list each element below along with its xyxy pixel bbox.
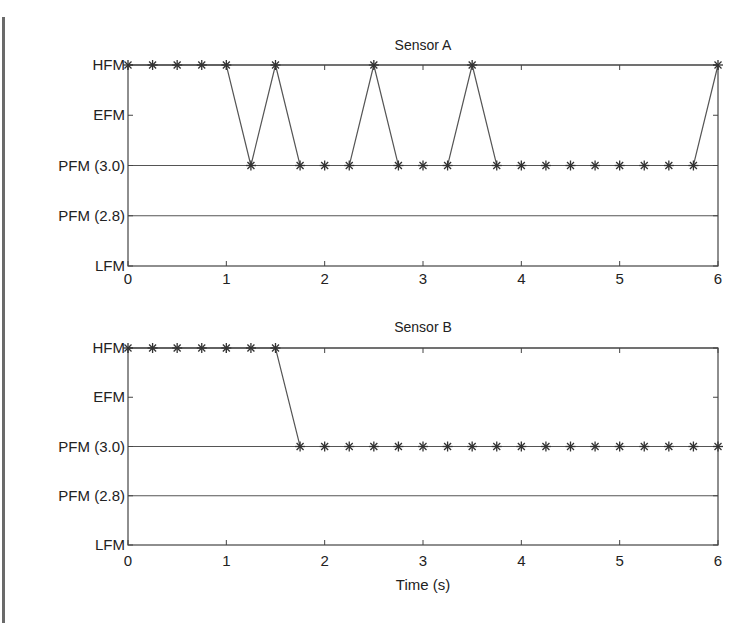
data-point-marker xyxy=(148,60,158,70)
x-tick-label: 0 xyxy=(124,552,132,569)
data-point-marker xyxy=(418,442,428,452)
data-point-marker xyxy=(492,442,502,452)
data-point-marker xyxy=(590,442,600,452)
x-tick-label: 3 xyxy=(419,270,427,287)
data-point-marker xyxy=(590,161,600,171)
data-point-marker xyxy=(664,442,674,452)
data-point-marker xyxy=(639,161,649,171)
data-point-marker xyxy=(172,60,182,70)
data-point-marker xyxy=(246,343,256,353)
data-point-marker xyxy=(123,343,133,353)
data-point-marker xyxy=(443,442,453,452)
data-point-marker xyxy=(172,343,182,353)
data-point-marker xyxy=(713,442,723,452)
data-point-marker xyxy=(443,161,453,171)
x-tick-label: 2 xyxy=(320,270,328,287)
x-axis-label: Time (s) xyxy=(396,576,450,593)
data-series-line xyxy=(128,65,718,166)
x-tick-label: 1 xyxy=(222,270,230,287)
chart-sensor-a: Sensor ALFMPFM (2.8)PFM (3.0)EFMHFM01234… xyxy=(58,37,723,287)
x-tick-label: 3 xyxy=(419,552,427,569)
y-tick-label: PFM (3.0) xyxy=(58,157,125,174)
y-tick-label: EFM xyxy=(93,388,125,405)
y-tick-label: HFM xyxy=(93,339,126,356)
data-point-marker xyxy=(541,442,551,452)
data-point-marker xyxy=(369,442,379,452)
data-point-marker xyxy=(197,60,207,70)
data-point-marker xyxy=(271,343,281,353)
data-point-marker xyxy=(197,343,207,353)
chart-title: Sensor A xyxy=(395,37,452,53)
data-point-marker xyxy=(295,161,305,171)
data-point-marker xyxy=(541,161,551,171)
data-point-marker xyxy=(369,60,379,70)
x-tick-label: 6 xyxy=(714,552,722,569)
data-point-marker xyxy=(148,343,158,353)
data-point-marker xyxy=(320,442,330,452)
data-point-marker xyxy=(688,161,698,171)
data-point-marker xyxy=(713,60,723,70)
y-tick-label: PFM (2.8) xyxy=(58,207,125,224)
data-point-marker xyxy=(566,442,576,452)
data-point-marker xyxy=(516,442,526,452)
data-point-marker xyxy=(639,442,649,452)
x-tick-label: 5 xyxy=(615,270,623,287)
x-tick-label: 2 xyxy=(320,552,328,569)
data-point-marker xyxy=(467,60,477,70)
chart-sensor-b: Sensor BLFMPFM (2.8)PFM (3.0)EFMHFM01234… xyxy=(58,319,723,593)
y-tick-label: HFM xyxy=(93,56,126,73)
x-tick-label: 6 xyxy=(714,270,722,287)
data-point-marker xyxy=(246,161,256,171)
data-point-marker xyxy=(221,60,231,70)
sensor-charts: Sensor ALFMPFM (2.8)PFM (3.0)EFMHFM01234… xyxy=(0,0,756,623)
x-tick-label: 4 xyxy=(517,270,525,287)
data-point-marker xyxy=(615,442,625,452)
y-tick-label: EFM xyxy=(93,106,125,123)
y-tick-label: PFM (2.8) xyxy=(58,487,125,504)
data-point-marker xyxy=(664,161,674,171)
x-tick-label: 5 xyxy=(615,552,623,569)
data-point-marker xyxy=(295,442,305,452)
y-tick-label: LFM xyxy=(95,257,125,274)
data-point-marker xyxy=(123,60,133,70)
chart-title: Sensor B xyxy=(394,319,452,335)
x-tick-label: 1 xyxy=(222,552,230,569)
y-tick-label: LFM xyxy=(95,536,125,553)
data-point-marker xyxy=(615,161,625,171)
data-series-line xyxy=(128,348,718,447)
x-tick-label: 0 xyxy=(124,270,132,287)
data-point-marker xyxy=(344,161,354,171)
data-point-marker xyxy=(492,161,502,171)
data-point-marker xyxy=(393,442,403,452)
data-point-marker xyxy=(393,161,403,171)
data-point-marker xyxy=(688,442,698,452)
data-point-marker xyxy=(516,161,526,171)
data-point-marker xyxy=(344,442,354,452)
data-point-marker xyxy=(566,161,576,171)
data-point-marker xyxy=(320,161,330,171)
data-point-marker xyxy=(271,60,281,70)
data-point-marker xyxy=(221,343,231,353)
data-point-marker xyxy=(418,161,428,171)
x-tick-label: 4 xyxy=(517,552,525,569)
y-tick-label: PFM (3.0) xyxy=(58,438,125,455)
data-point-marker xyxy=(467,442,477,452)
